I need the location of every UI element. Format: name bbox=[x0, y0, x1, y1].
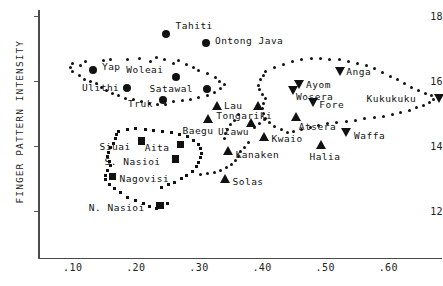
data-point-label: Truk bbox=[128, 99, 153, 109]
outline-dot bbox=[328, 58, 331, 61]
outline-dot bbox=[144, 128, 147, 131]
outline-dot bbox=[117, 94, 120, 97]
outline-dot bbox=[354, 119, 357, 122]
data-point-tri-up bbox=[259, 132, 269, 141]
data-point-circle bbox=[172, 73, 180, 81]
outline-dot bbox=[180, 177, 183, 180]
outline-dot bbox=[79, 64, 82, 67]
outline-dot bbox=[382, 115, 385, 118]
y-tick-mark bbox=[34, 146, 38, 147]
y-tick-label: 18 bbox=[413, 11, 443, 22]
outline-dot bbox=[223, 83, 226, 86]
data-point-label: Satawal bbox=[150, 84, 194, 94]
data-point-circle bbox=[159, 96, 167, 104]
outline-dot bbox=[300, 58, 303, 61]
y-tick-mark bbox=[34, 81, 38, 82]
plot-area: FINGER PATTERN INTENSITY 18161412 .10.20… bbox=[0, 0, 443, 286]
outline-dot bbox=[166, 202, 169, 205]
outline-dot bbox=[292, 130, 295, 133]
outline-dot bbox=[181, 99, 184, 102]
data-point-label: Kanaken bbox=[236, 150, 280, 160]
outline-dot bbox=[396, 78, 399, 81]
outline-dot bbox=[213, 91, 216, 94]
data-point-label: Ulithi bbox=[82, 83, 119, 93]
outline-dot bbox=[197, 161, 200, 164]
data-point-label: Waffa bbox=[354, 131, 385, 141]
outline-dot bbox=[84, 60, 87, 63]
outline-dot bbox=[338, 58, 341, 61]
data-point-label: Siuai bbox=[100, 142, 131, 152]
data-point-tri-down bbox=[341, 128, 351, 137]
outline-dot bbox=[347, 60, 350, 63]
outline-dot bbox=[173, 181, 176, 184]
outline-dot bbox=[71, 62, 74, 65]
data-point-label: Yap bbox=[102, 62, 121, 72]
data-point-label: Kukukuku bbox=[366, 94, 416, 104]
outline-dot bbox=[408, 109, 411, 112]
outline-dot bbox=[83, 78, 86, 81]
data-point-label: Nagovisi bbox=[119, 174, 169, 184]
outline-dot bbox=[172, 100, 175, 103]
x-tick-label: .40 bbox=[242, 262, 282, 273]
outline-dot bbox=[268, 121, 271, 124]
x-tick-label: .30 bbox=[179, 262, 219, 273]
data-point-label: Baegu bbox=[182, 126, 213, 136]
data-point-circle bbox=[162, 30, 170, 38]
outline-dot bbox=[262, 74, 265, 77]
data-point-tri-up bbox=[253, 101, 263, 110]
data-point-label: Atsera bbox=[299, 122, 336, 132]
outline-dot bbox=[258, 122, 261, 125]
outline-dot bbox=[273, 66, 276, 69]
data-point-label: Ayom bbox=[306, 80, 331, 90]
outline-dot bbox=[291, 60, 294, 63]
outline-dot bbox=[126, 196, 129, 199]
data-point-label: N. Nasioi bbox=[89, 203, 145, 213]
outline-dot bbox=[230, 163, 233, 166]
outline-dot bbox=[415, 106, 418, 109]
outline-dot bbox=[403, 82, 406, 85]
outline-dot bbox=[424, 92, 427, 95]
outline-dot bbox=[381, 71, 384, 74]
outline-dot bbox=[106, 169, 109, 172]
outline-dot bbox=[69, 66, 72, 69]
data-point-tri-down bbox=[434, 94, 443, 103]
outline-dot bbox=[138, 57, 141, 60]
outline-dot bbox=[206, 172, 209, 175]
outline-dot bbox=[117, 130, 120, 133]
y-axis-title: FINGER PATTERN INTENSITY bbox=[14, 44, 25, 204]
outline-dot bbox=[410, 86, 413, 89]
outline-dot bbox=[310, 57, 313, 60]
outline-dot bbox=[108, 183, 111, 186]
outline-dot bbox=[219, 169, 222, 172]
outline-dot bbox=[200, 152, 203, 155]
outline-dot bbox=[389, 75, 392, 78]
outline-dot bbox=[225, 166, 228, 169]
outline-dot bbox=[261, 93, 264, 96]
data-point-label: Anga bbox=[346, 67, 371, 77]
data-point-square bbox=[172, 155, 180, 163]
outline-dot bbox=[206, 94, 209, 97]
x-tick-label: .60 bbox=[368, 262, 408, 273]
data-point-tri-up bbox=[316, 140, 326, 149]
outline-dot bbox=[160, 186, 163, 189]
x-tick-label: .10 bbox=[53, 262, 93, 273]
outline-dot bbox=[178, 133, 181, 136]
data-point-square bbox=[109, 173, 117, 181]
outline-dot bbox=[430, 94, 433, 97]
outline-dot bbox=[191, 170, 194, 173]
y-tick-label: 12 bbox=[413, 206, 443, 217]
data-point-tri-up bbox=[223, 146, 233, 155]
outline-dot bbox=[185, 174, 188, 177]
data-point-tri-down bbox=[308, 98, 318, 107]
outline-dot bbox=[391, 113, 394, 116]
y-tick-mark bbox=[34, 211, 38, 212]
outline-dot bbox=[155, 56, 158, 59]
outline-dot bbox=[189, 98, 192, 101]
data-point-circle bbox=[202, 39, 210, 47]
outline-dot bbox=[197, 143, 200, 146]
outline-dot bbox=[104, 178, 107, 181]
outline-dot bbox=[152, 129, 155, 132]
y-axis-line bbox=[38, 10, 40, 259]
data-point-circle bbox=[123, 84, 131, 92]
data-point-label: Kwaio bbox=[272, 134, 303, 144]
